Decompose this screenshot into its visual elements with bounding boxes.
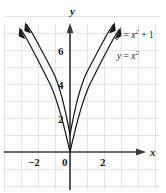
curve-label-x-squared: y = x2 xyxy=(117,50,139,62)
y-tick-label-2: 2 xyxy=(58,114,64,125)
curve-upper-right-arrowhead xyxy=(109,22,116,34)
x-tick-label-neg2: −2 xyxy=(28,157,40,168)
curve-upper-plus: + xyxy=(141,30,146,40)
curve-lower-lhs: y xyxy=(117,51,121,61)
curve-upper-equals: = xyxy=(124,30,129,40)
y-tick-label-4: 4 xyxy=(58,80,64,91)
x-axis-label: x xyxy=(150,147,156,158)
parabola-graph-figure: y x −2 0 2 2 4 6 y = x2 + 1 y = x2 xyxy=(0,0,166,193)
curve-upper-exponent: 2 xyxy=(136,28,139,35)
curve-lower-exponent: 2 xyxy=(136,49,139,56)
curve-upper-constant: 1 xyxy=(149,30,154,40)
curve-upper-lhs: y xyxy=(117,30,121,40)
curve-label-x-squared-plus-one: y = x2 + 1 xyxy=(117,29,154,41)
x-tick-label-2: 2 xyxy=(100,157,106,168)
coordinate-axes xyxy=(4,23,146,190)
curve-lower-equals: = xyxy=(124,51,129,61)
y-axis-label: y xyxy=(70,6,75,17)
y-axis-arrowhead xyxy=(67,23,74,33)
x-axis-arrowhead xyxy=(136,149,146,156)
x-tick-label-0: 0 xyxy=(62,157,68,168)
y-tick-label-6: 6 xyxy=(58,46,64,57)
curve-upper-left-arrowhead xyxy=(24,22,31,34)
